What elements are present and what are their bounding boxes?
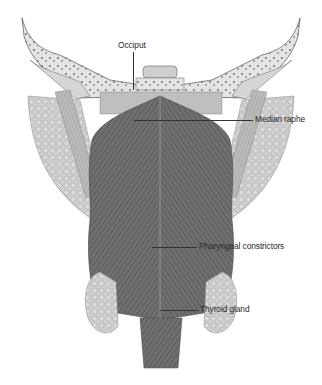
- esophagus: [140, 318, 182, 368]
- leader-thyroid-gland: [160, 310, 198, 311]
- thyroid-lobe-left: [85, 272, 118, 333]
- leader-occiput: [133, 52, 134, 90]
- thyroid-lobe-right: [204, 272, 237, 333]
- label-thyroid-gland: Thyroid gland: [200, 305, 249, 313]
- occipital-bone: [22, 18, 300, 99]
- leader-pharyngeal-constrictors: [152, 247, 197, 248]
- label-occiput: Occiput: [118, 41, 146, 49]
- pharynx-illustration: [0, 0, 322, 385]
- label-median-raphe: Median raphe: [255, 115, 305, 123]
- label-pharyngeal-constrictors: Pharyngeal constrictors: [199, 242, 284, 250]
- leader-median-raphe: [134, 120, 253, 121]
